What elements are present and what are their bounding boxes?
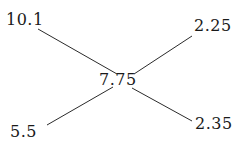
node-label-bottom-left: 5.5 [10,124,37,140]
edge-center-to-top-right [134,36,192,74]
node-link-diagram: 10.1 2.25 7.75 5.5 2.35 [0,0,246,152]
node-label-bottom-right: 2.35 [195,116,233,132]
edge-bottom-left-to-center [47,87,113,125]
node-label-top-left: 10.1 [6,12,44,28]
edge-center-to-bottom-right [132,88,192,121]
node-label-center: 7.75 [99,72,137,88]
node-label-top-right: 2.25 [194,18,232,34]
edge-top-left-to-center [38,29,117,74]
